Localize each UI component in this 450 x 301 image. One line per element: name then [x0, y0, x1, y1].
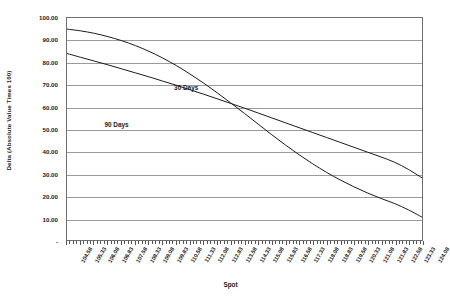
x-axis-tick — [196, 241, 197, 244]
series-label-90-days: 90 Days — [104, 121, 128, 128]
x-axis-tick — [200, 241, 201, 244]
x-axis-tick — [97, 241, 98, 244]
x-axis-tick — [104, 241, 105, 244]
x-axis-tick — [306, 241, 307, 244]
y-axis-tick-label: 80.00 — [43, 58, 58, 65]
x-axis-tick — [289, 241, 290, 244]
x-axis-tick-label: 108.33 — [148, 246, 162, 264]
x-axis-tick — [337, 241, 338, 244]
x-axis-tick-label: 123.33 — [423, 246, 437, 264]
x-axis-tick — [392, 241, 393, 244]
x-axis-tick — [423, 241, 424, 245]
x-axis-tick — [399, 241, 400, 244]
x-axis-tick — [231, 241, 232, 245]
y-axis-tick-label: 100.00 — [39, 14, 58, 21]
y-axis-tick-label: 60.00 — [43, 103, 58, 110]
x-axis-tick — [69, 241, 70, 244]
x-axis-tick — [310, 241, 311, 244]
x-axis-tick — [413, 241, 414, 244]
x-axis-tick — [258, 241, 259, 245]
x-axis-tick-label: 107.58 — [134, 246, 148, 264]
x-axis-tick — [396, 241, 397, 245]
y-axis-tick-label: 10.00 — [43, 215, 58, 222]
series-label-30-days: 30 Days — [174, 84, 198, 91]
x-axis-tick — [409, 241, 410, 245]
y-axis-tick-label: - — [56, 238, 58, 245]
x-axis-tick — [210, 241, 211, 244]
y-axis-tick-label: 90.00 — [43, 36, 58, 43]
y-axis-tick-label: 40.00 — [43, 148, 58, 155]
plot-area: 30 Days90 Days — [66, 17, 423, 241]
x-axis-tick — [114, 241, 115, 244]
y-axis-tick-label: 20.00 — [43, 193, 58, 200]
x-axis-tick — [272, 241, 273, 245]
x-axis-tick — [214, 241, 215, 244]
x-axis-tick — [279, 241, 280, 244]
x-axis-tick-label: 110.58 — [189, 246, 203, 264]
x-axis-tick — [303, 241, 304, 244]
x-axis-tick-label: 121.08 — [382, 246, 396, 264]
x-axis-tick-label: 109.08 — [162, 246, 176, 264]
x-axis-tick — [368, 241, 369, 245]
x-axis-tick — [207, 241, 208, 244]
x-axis-tick — [406, 241, 407, 244]
x-axis-tick — [186, 241, 187, 244]
x-axis-tick-label: 117.33 — [313, 246, 327, 264]
y-axis-title: Delta (Absolute Value Times 100) — [0, 0, 16, 241]
x-axis-tick — [245, 241, 246, 245]
x-axis-tick — [190, 241, 191, 245]
x-axis-tick — [155, 241, 156, 244]
x-axis-tick — [293, 241, 294, 244]
x-axis-tick — [344, 241, 345, 244]
x-axis-tick — [148, 241, 149, 245]
x-axis-tick — [159, 241, 160, 244]
x-axis-tick — [169, 241, 170, 244]
x-axis-tick — [124, 241, 125, 244]
x-axis-tick-label: 104.58 — [80, 246, 94, 264]
x-axis-title-label: Spot — [223, 281, 237, 288]
x-axis-tick-label: 109.83 — [176, 246, 190, 264]
x-axis-tick — [138, 241, 139, 244]
x-axis-tick-label: 122.58 — [409, 246, 423, 264]
x-axis-tick — [262, 241, 263, 244]
x-axis-tick-label: 111.33 — [203, 246, 216, 263]
x-axis-tick — [241, 241, 242, 244]
x-axis-tick — [111, 241, 112, 244]
x-axis-tick-label: 106.83 — [121, 246, 135, 264]
x-axis-tick — [66, 241, 67, 245]
x-axis-tick — [416, 241, 417, 244]
x-axis-tick-label: 124.08 — [437, 246, 450, 264]
x-axis-tick — [135, 241, 136, 245]
x-axis-tick — [107, 241, 108, 245]
x-axis-tick — [176, 241, 177, 245]
x-axis-tick — [227, 241, 228, 244]
x-axis-tick-label: 106.08 — [107, 246, 121, 264]
x-axis-tick-label: 115.08 — [272, 246, 286, 264]
x-axis-tick — [389, 241, 390, 244]
x-axis-tick-label: 118.08 — [327, 246, 341, 264]
x-axis-title: Spot — [0, 281, 441, 288]
x-axis-tick-label: 115.83 — [285, 246, 299, 264]
y-axis-title-label: Delta (Absolute Value Times 100) — [5, 70, 12, 170]
x-axis-tick — [179, 241, 180, 244]
x-axis-tick — [299, 241, 300, 245]
x-axis-tick — [93, 241, 94, 245]
x-axis-tick — [145, 241, 146, 244]
x-axis-tick — [361, 241, 362, 244]
x-axis-tick — [76, 241, 77, 244]
x-axis-tick — [203, 241, 204, 245]
x-axis-tick — [234, 241, 235, 244]
x-axis-tick — [385, 241, 386, 244]
x-axis-tick — [193, 241, 194, 244]
series-lines — [67, 18, 422, 240]
x-axis-tick — [341, 241, 342, 245]
x-axis-tick — [248, 241, 249, 244]
x-axis-tick-labels: 104.58105.33106.08106.83107.58108.33109.… — [66, 246, 423, 280]
x-axis-tick-label: 105.33 — [93, 246, 107, 264]
y-axis-tick-label: 30.00 — [43, 170, 58, 177]
x-axis-tick-label: 118.83 — [340, 246, 354, 264]
x-axis-tick — [224, 241, 225, 244]
y-axis-tick-label: 70.00 — [43, 81, 58, 88]
x-axis-tick — [217, 241, 218, 245]
